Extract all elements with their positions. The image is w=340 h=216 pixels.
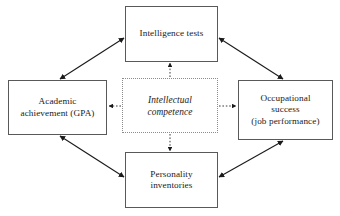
node-personality-inventories-label: Personality inventories xyxy=(148,169,194,191)
diagram-canvas: Intelligence tests Academic achievement … xyxy=(0,0,340,216)
node-intellectual-competence-label: Intellectual competence xyxy=(145,94,194,118)
node-intelligence-tests-label: Intelligence tests xyxy=(138,28,206,39)
node-intellectual-competence[interactable]: Intellectual competence xyxy=(122,78,218,133)
edge-academic-to-personality xyxy=(60,136,124,177)
edge-intelligence-to-occupational xyxy=(219,38,283,79)
node-occupational-success[interactable]: Occupational success (job performance) xyxy=(238,80,333,140)
edge-personality-to-occupational xyxy=(219,141,283,177)
node-intelligence-tests[interactable]: Intelligence tests xyxy=(125,6,218,62)
node-occupational-success-label: Occupational success (job performance) xyxy=(249,93,321,127)
node-academic-achievement-label: Academic achievement (GPA) xyxy=(18,96,96,118)
node-academic-achievement[interactable]: Academic achievement (GPA) xyxy=(8,80,107,135)
edge-academic-to-intelligence xyxy=(60,38,124,79)
node-personality-inventories[interactable]: Personality inventories xyxy=(125,152,218,208)
